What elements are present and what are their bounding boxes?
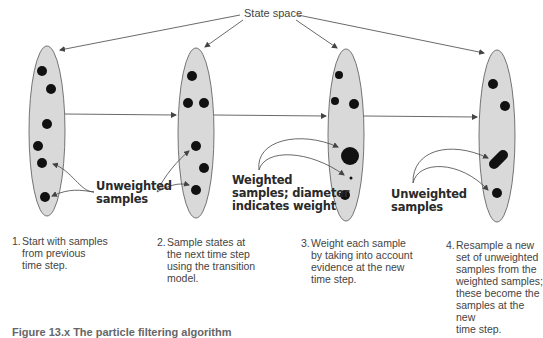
step-3: 3. Weight each sample by taking into acc… (301, 237, 426, 285)
state-space-ellipse-1 (29, 46, 65, 216)
step-4: 4. Resample a new set of unweighted samp… (446, 239, 543, 335)
unweighted-samples-label-left: Unweighted samples (96, 180, 172, 206)
step-2: 2. Sample states at the next time step u… (157, 236, 272, 284)
state-space-ellipse-2 (178, 48, 214, 218)
state-space-arrows (60, 15, 484, 53)
unweighted-samples-label-right: Unweighted samples (391, 188, 467, 214)
timestep-arrows (64, 114, 477, 117)
state-space-label: State space (244, 7, 302, 19)
step-1: 1. Start with samples from previous time… (12, 235, 122, 271)
unweighted-right-pointers (413, 149, 488, 190)
state-space-ellipse-4 (479, 50, 515, 222)
weighted-samples-label: Weighted samples; diameter indicates wei… (232, 174, 349, 213)
figure-caption: Figure 13.x The particle filtering algor… (12, 326, 231, 338)
